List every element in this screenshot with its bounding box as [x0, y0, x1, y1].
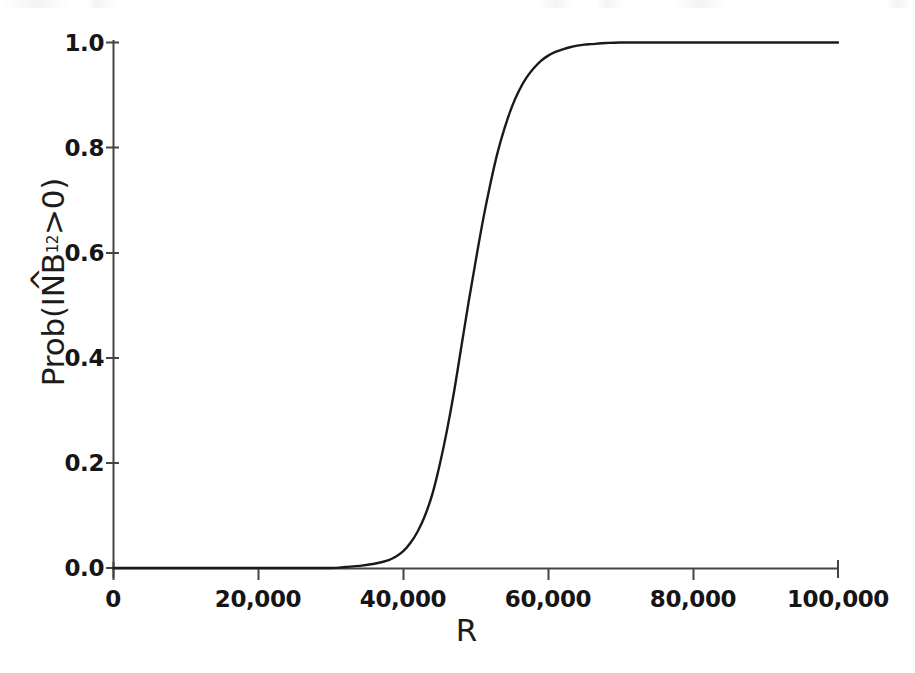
x-axis-title: R	[0, 612, 915, 648]
y-tick-label-1: 1.0	[42, 30, 104, 56]
x-tick-label-5: 80,000	[623, 586, 763, 612]
chart-plot-area	[0, 0, 915, 673]
y-axis-title-suffix: >0)	[35, 178, 71, 235]
y-axis-title: Prob(^INB12>0)	[30, 112, 76, 452]
x-tick-label-3: 40,000	[333, 586, 473, 612]
x-tick-label-1: 0	[43, 586, 183, 612]
y-axis-title-prefix: Prob(	[35, 306, 71, 386]
y-axis-title-hat-group: ^INB	[35, 253, 71, 306]
y-axis-title-hat-term: INB	[35, 253, 71, 306]
x-tick-label-4: 60,000	[478, 586, 618, 612]
x-tick-label-2: 20,000	[188, 586, 328, 612]
x-tick-label-6: 100,000	[768, 586, 908, 612]
x-axis-title-text: R	[438, 612, 478, 648]
x-axis-ticks	[114, 560, 839, 580]
y-axis-title-subscript: 12	[44, 235, 62, 253]
chart-figure: 1.0 0.8 0.6 0.4 0.2 0.0 0 20,000 40,000 …	[0, 0, 915, 673]
y-tick-label-6: 0.0	[42, 555, 104, 581]
data-series-line	[114, 42, 839, 568]
y-tick-label-5: 0.2	[42, 450, 104, 476]
